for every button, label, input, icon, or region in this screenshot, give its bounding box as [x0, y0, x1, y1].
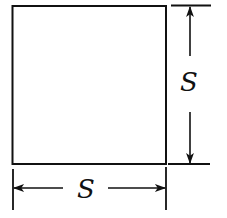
square-dimension-diagram: S S	[0, 0, 227, 218]
horizontal-dimension-label: S	[77, 174, 95, 204]
square-shape	[13, 6, 167, 164]
vertical-dimension-label: S	[180, 67, 198, 97]
